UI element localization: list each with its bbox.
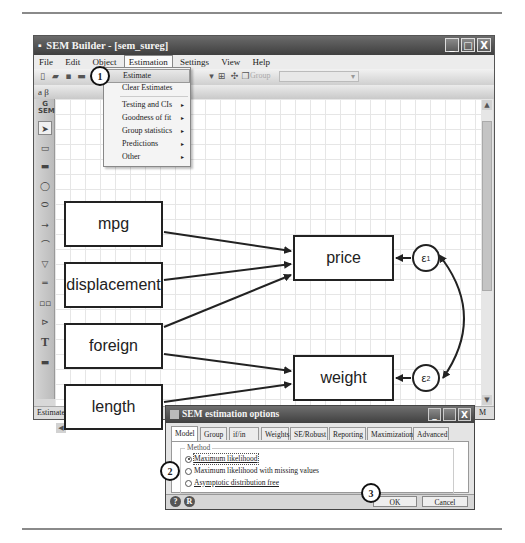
callout-2: 2 — [160, 461, 180, 481]
dialog-footer: ? R OK Cancel — [166, 494, 474, 509]
tab-maximization[interactable]: Maximization — [367, 427, 412, 440]
dialog-app-icon — [170, 410, 179, 419]
status-right: M — [479, 407, 486, 419]
latent-variable-icon[interactable]: ◯ — [38, 179, 52, 193]
top-rule — [22, 12, 502, 14]
submenu-arrow-icon: ▸ — [181, 125, 184, 137]
window-titlebar[interactable]: ▪ SEM Builder - [sem_sureg] _ □ X — [34, 36, 494, 55]
radio-ml-missing-values[interactable]: Maximum likelihood with missing values — [185, 466, 319, 476]
save-icon[interactable]: ▪ — [63, 71, 74, 82]
tool-palette: G SEM ➤ ▭ ▬ ◯ ⬭ → ⌒ ▽ ═ ▫▫ ⊳ T ▬ — [36, 99, 55, 399]
radio-maximum-likelihood[interactable]: Maximum likelihood — [185, 454, 258, 464]
covariance-icon[interactable]: ⌒ — [38, 238, 52, 252]
tab-se-robust[interactable]: SE/Robust — [290, 427, 328, 440]
error-e2[interactable]: ε2 — [412, 364, 440, 392]
tab-weights[interactable]: Weights — [261, 427, 289, 440]
submenu-arrow-icon: ▸ — [181, 112, 184, 124]
text-tool-icon[interactable]: T — [38, 335, 52, 349]
dialog-maximize-button[interactable] — [443, 408, 456, 421]
callout-1: 1 — [90, 66, 110, 86]
menu-file[interactable]: File — [34, 55, 58, 69]
dialog-minimize-button[interactable]: _ — [428, 408, 441, 421]
model-tab-panel: Method Maximum likelihood Maximum likeli… — [171, 441, 469, 493]
tab-advanced[interactable]: Advanced — [413, 427, 449, 440]
help-icon[interactable]: ? — [170, 496, 181, 507]
select-tool-icon[interactable]: ➤ — [38, 121, 52, 135]
submenu-arrow-icon: ▸ — [181, 138, 184, 150]
print-icon[interactable]: ▬ — [76, 71, 87, 82]
lock-beta-label: a β — [38, 87, 49, 97]
node-weight[interactable]: weight — [293, 355, 394, 401]
node-displacement[interactable]: displacement — [64, 262, 163, 308]
maximize-button[interactable]: □ — [461, 38, 475, 52]
vertical-scrollbar[interactable]: ▲ ▼ — [481, 99, 493, 419]
sem-estimation-options-dialog: SEM estimation options _ X Model Group i… — [165, 405, 475, 510]
tab-model[interactable]: Model — [171, 426, 198, 441]
observed-variable-icon[interactable]: ▭ — [38, 141, 52, 155]
path-icon[interactable]: → — [38, 218, 52, 232]
area-tool-icon[interactable]: ▬ — [38, 355, 52, 369]
status-text: Estimate — [37, 408, 65, 417]
latent-variable-bold-icon[interactable]: ⬭ — [38, 198, 52, 212]
minimize-button[interactable]: _ — [445, 38, 459, 52]
new-file-icon[interactable]: ▯ — [37, 71, 48, 82]
dialog-titlebar[interactable]: SEM estimation options _ X — [166, 406, 474, 423]
menu-help[interactable]: Help — [248, 55, 276, 69]
scroll-down-icon[interactable]: ▼ — [482, 395, 492, 405]
submenu-arrow-icon: ▸ — [181, 99, 184, 111]
scroll-up-icon[interactable]: ▲ — [482, 100, 492, 110]
reset-icon[interactable]: R — [184, 496, 195, 507]
tab-if-in[interactable]: if/in — [229, 427, 259, 440]
tab-reporting[interactable]: Reporting — [329, 427, 366, 440]
open-folder-icon[interactable]: ▰ — [50, 71, 61, 82]
submenu-arrow-icon: ▸ — [181, 151, 184, 163]
menu-item-group-statistics[interactable]: Group statistics▸ — [104, 125, 190, 137]
tab-group[interactable]: Group — [200, 427, 227, 440]
dialog-title: SEM estimation options — [182, 409, 279, 419]
regression-component-alt-icon[interactable]: ▫▫ — [38, 296, 52, 310]
fit-to-window-icon[interactable]: ⊞ — [216, 71, 227, 82]
menu-item-other[interactable]: Other▸ — [104, 151, 190, 163]
bottom-rule — [22, 528, 502, 530]
close-button[interactable]: X — [477, 38, 491, 52]
node-foreign[interactable]: foreign — [64, 323, 163, 369]
cancel-button[interactable]: Cancel — [422, 496, 468, 507]
chevron-down-icon: ▾ — [351, 72, 355, 81]
estimation-menu: Estimate Clear Estimates Testing and CIs… — [103, 67, 191, 167]
menu-item-goodness-of-fit[interactable]: Goodness of fit▸ — [104, 112, 190, 124]
node-length[interactable]: length — [64, 384, 163, 430]
group-select[interactable]: ▾ — [279, 71, 359, 82]
latent-component-icon[interactable]: ⊳ — [38, 315, 52, 329]
dialog-close-button[interactable]: X — [458, 408, 471, 421]
radio-adf[interactable]: Asymptotic distribution free — [185, 478, 279, 488]
app-icon: ▪ — [38, 40, 42, 51]
node-mpg[interactable]: mpg — [64, 201, 163, 247]
callout-3: 3 — [361, 483, 381, 503]
regression-component-icon[interactable]: ═ — [38, 276, 52, 290]
measurement-component-icon[interactable]: ▽ — [38, 257, 52, 271]
menu-item-estimate[interactable]: Estimate — [104, 69, 190, 83]
zoom-icon[interactable]: ✣ — [229, 71, 240, 82]
group-label: Group — [250, 71, 270, 80]
method-group: Method Maximum likelihood Maximum likeli… — [180, 448, 454, 494]
node-price[interactable]: price — [293, 235, 394, 281]
menu-edit[interactable]: Edit — [60, 55, 85, 69]
observed-variable-bold-icon[interactable]: ▬ — [38, 159, 52, 173]
window-title: SEM Builder - [sem_sureg] — [46, 40, 168, 51]
menu-item-clear-estimates[interactable]: Clear Estimates — [104, 82, 190, 94]
scroll-thumb[interactable] — [482, 121, 492, 291]
gsem-icon[interactable]: G SEM — [38, 101, 52, 115]
menu-separator — [120, 96, 188, 97]
menu-item-testing-cis[interactable]: Testing and CIs▸ — [104, 99, 190, 111]
menu-item-predictions[interactable]: Predictions▸ — [104, 138, 190, 150]
error-e1[interactable]: ε1 — [412, 244, 440, 272]
method-legend: Method — [185, 443, 212, 452]
menu-view[interactable]: View — [216, 55, 245, 69]
